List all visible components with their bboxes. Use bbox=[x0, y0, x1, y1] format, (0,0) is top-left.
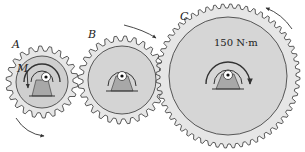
gear-c bbox=[156, 4, 300, 148]
gear-a bbox=[6, 46, 78, 118]
gear-b-label: B bbox=[88, 28, 96, 41]
moment-label: M bbox=[17, 62, 28, 75]
gear-b-axle-pin bbox=[120, 74, 123, 77]
gear-b bbox=[78, 36, 166, 124]
torque-label: 150 N·m bbox=[214, 37, 258, 48]
gear-b-rotation-arrow bbox=[124, 25, 156, 38]
gear-train-diagram: A B C M 150 N·m bbox=[0, 0, 305, 152]
gear-a-rotation-arrow bbox=[16, 118, 44, 136]
gear-c-label: C bbox=[180, 10, 188, 23]
gear-c-axle-pin bbox=[226, 73, 229, 76]
gear-a-label: A bbox=[12, 38, 20, 51]
gear-train-svg bbox=[0, 0, 305, 152]
gear-a-axle-pin bbox=[44, 75, 47, 78]
